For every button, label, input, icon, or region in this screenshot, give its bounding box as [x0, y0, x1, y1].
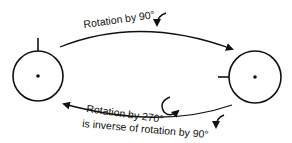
top-arrow — [60, 31, 232, 49]
clockwise-icon — [157, 13, 166, 25]
right-state-circle — [218, 51, 281, 103]
clockwise-icon-bottom — [216, 115, 224, 127]
rotation-diagram: Rotation by 90° Rotation by 270° is inve… — [0, 0, 292, 143]
top-arrow-label: Rotation by 90° — [83, 8, 156, 30]
left-state-circle — [13, 38, 63, 101]
